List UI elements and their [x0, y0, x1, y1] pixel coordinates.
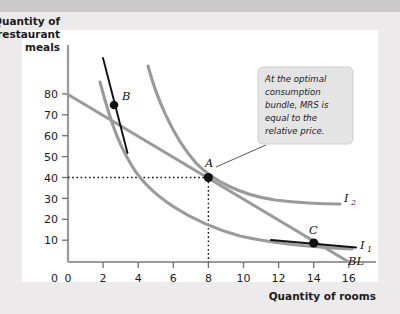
- curve-label-bl: BL: [347, 254, 364, 268]
- point-c-marker[interactable]: [309, 238, 318, 247]
- guide-lines-point-a: [68, 178, 208, 263]
- x-tick-2: 2: [100, 272, 107, 285]
- callout-line-1: At the optimal: [264, 74, 327, 84]
- callout-line-5: relative price.: [265, 126, 324, 136]
- callout-box: At the optimal consumption bundle, MRS i…: [258, 67, 353, 144]
- figure-root: 0 10 20 30 40 50 60 70 80 0 2 4 6 8 10 1…: [0, 0, 400, 314]
- x-tick-14: 14: [307, 272, 321, 285]
- y-tick-labels: 0 10 20 30 40 50 60 70 80: [44, 88, 58, 285]
- x-tick-labels: 0 2 4 6 8 10 12 14 16: [65, 272, 356, 285]
- y-tick-40: 40: [44, 172, 58, 185]
- curve-label-i2-text: I: [343, 191, 349, 205]
- x-tick-6: 6: [170, 272, 177, 285]
- point-b-label: B: [121, 89, 130, 103]
- callout-line-2: consumption: [265, 87, 321, 97]
- x-axis-title: Quantity of rooms: [269, 290, 376, 302]
- y-tick-60: 60: [44, 130, 58, 143]
- y-tick-70: 70: [44, 109, 58, 122]
- y-axis-title: Quantity of restaurant meals: [0, 15, 60, 53]
- curve-label-i1-text: I: [359, 238, 365, 252]
- curve-label-i1-subscript: 1: [367, 245, 372, 254]
- callout-line-3: bundle, MRS is: [265, 100, 329, 110]
- point-a-marker[interactable]: [204, 173, 213, 182]
- y-tick-0: 0: [51, 272, 58, 285]
- y-tick-10: 10: [44, 234, 58, 247]
- y-axis-title-line-2: restaurant: [0, 28, 60, 40]
- x-tick-0: 0: [65, 272, 72, 285]
- point-b-marker[interactable]: [110, 101, 119, 110]
- x-tick-16: 16: [342, 272, 356, 285]
- y-tick-50: 50: [44, 151, 58, 164]
- y-tick-20: 20: [44, 213, 58, 226]
- x-tick-4: 4: [135, 272, 142, 285]
- y-axis-title-line-3: meals: [25, 41, 60, 53]
- x-tick-12: 12: [272, 272, 286, 285]
- point-c-label: C: [309, 223, 318, 237]
- chart-svg: 0 10 20 30 40 50 60 70 80 0 2 4 6 8 10 1…: [0, 0, 400, 314]
- y-tick-80: 80: [44, 88, 58, 101]
- y-tick-30: 30: [44, 193, 58, 206]
- curve-label-i2-subscript: 2: [350, 198, 356, 207]
- point-a-label: A: [204, 156, 213, 170]
- x-tick-8: 8: [205, 272, 212, 285]
- curve-label-i2: I 2: [343, 191, 356, 207]
- callout-line-4: equal to the: [265, 113, 317, 123]
- curve-label-i1: I 1: [359, 238, 372, 254]
- x-tick-10: 10: [237, 272, 251, 285]
- y-axis-title-line-1: Quantity of: [0, 15, 60, 27]
- callout-leader-line: [216, 145, 266, 167]
